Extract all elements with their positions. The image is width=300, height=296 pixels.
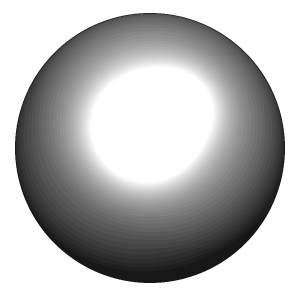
render-viewport	[0, 0, 300, 296]
sphere-render	[0, 0, 300, 296]
